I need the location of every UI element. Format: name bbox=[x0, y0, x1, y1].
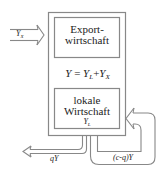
leak-arrow-label: qY bbox=[50, 155, 58, 163]
local-box-line2: Wirtschaft bbox=[54, 106, 120, 117]
input-arrow-label: YX bbox=[16, 30, 24, 39]
equation-equals: = bbox=[71, 67, 83, 79]
local-box-label: lokale Wirtschaft YL bbox=[54, 95, 120, 129]
export-box-line2: wirtschaft bbox=[54, 35, 120, 46]
feedback-arrow-label: (c-q)Y bbox=[113, 154, 133, 162]
income-equation: Y = YL+YX bbox=[49, 68, 126, 83]
local-box-var-sub: L bbox=[88, 122, 91, 127]
export-box-label: Export- wirtschaft bbox=[54, 24, 120, 46]
equation-term2-sub: X bbox=[105, 73, 109, 81]
input-label-sub: X bbox=[20, 34, 23, 39]
